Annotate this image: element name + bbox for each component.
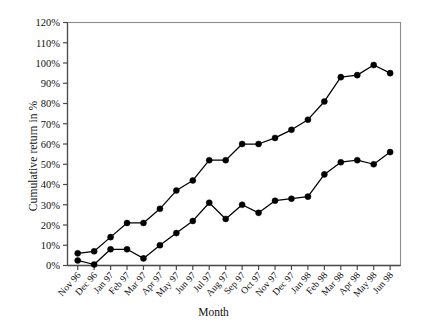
y-tick-label: 30% (41, 200, 61, 211)
y-tick-label: 50% (41, 159, 61, 170)
data-point-marker (108, 234, 114, 240)
y-axis-title: Cumulative return in % (27, 71, 39, 241)
data-point-marker (91, 248, 97, 254)
data-point-marker (140, 220, 146, 226)
line-chart-plot: 0%10%20%30%40%50%60%70%80%90%100%110%120… (0, 0, 427, 329)
y-tick-label: 0% (46, 260, 60, 271)
data-point-marker (190, 177, 196, 183)
data-point-marker (371, 161, 377, 167)
data-point-marker (223, 216, 229, 222)
data-point-marker (272, 198, 278, 204)
data-point-marker (305, 117, 311, 123)
x-axis-title: Month (0, 306, 427, 318)
data-point-marker (338, 159, 344, 165)
y-tick-label: 40% (41, 179, 61, 190)
y-tick-label: 100% (36, 58, 61, 69)
data-point-marker (305, 194, 311, 200)
data-point-marker (91, 261, 97, 267)
data-point-marker (206, 157, 212, 163)
data-point-marker (321, 171, 327, 177)
data-point-marker (75, 250, 81, 256)
y-tick-label: 80% (41, 98, 61, 109)
y-tick-label: 90% (41, 78, 61, 89)
data-point-marker (124, 246, 130, 252)
data-point-marker (288, 127, 294, 133)
data-point-marker (157, 242, 163, 248)
y-tick-label: 110% (36, 38, 60, 49)
data-point-marker (173, 188, 179, 194)
x-axis-ticks (78, 266, 390, 271)
x-axis-tick-labels: Nov 96Dec 96Jan 97Feb 97Mar 97Apr 97May … (55, 269, 395, 298)
data-point-marker (338, 74, 344, 80)
data-point-marker (354, 157, 360, 163)
series-lines (78, 65, 390, 264)
data-point-marker (206, 200, 212, 206)
chart-container: 0%10%20%30%40%50%60%70%80%90%100%110%120… (0, 0, 427, 329)
data-point-marker (256, 141, 262, 147)
data-point-marker (387, 70, 393, 76)
y-tick-label: 10% (41, 240, 61, 251)
series-markers (75, 62, 394, 268)
data-point-marker (239, 202, 245, 208)
data-point-marker (223, 157, 229, 163)
data-point-marker (371, 62, 377, 68)
data-point-marker (157, 206, 163, 212)
data-point-marker (288, 196, 294, 202)
plot-frame (68, 23, 401, 266)
y-tick-label: 120% (36, 17, 61, 28)
data-point-marker (256, 210, 262, 216)
y-tick-label: 70% (41, 119, 61, 130)
data-point-marker (140, 255, 146, 261)
y-axis-ticks (63, 23, 68, 266)
data-point-marker (272, 135, 278, 141)
data-point-marker (108, 246, 114, 252)
data-point-marker (75, 257, 81, 263)
data-point-marker (124, 220, 130, 226)
series-line (78, 65, 390, 253)
y-tick-label: 20% (41, 220, 61, 231)
data-point-marker (387, 149, 393, 155)
data-point-marker (173, 230, 179, 236)
data-point-marker (354, 72, 360, 78)
data-point-marker (321, 98, 327, 104)
data-point-marker (190, 218, 196, 224)
y-axis-tick-labels: 0%10%20%30%40%50%60%70%80%90%100%110%120… (36, 17, 61, 271)
y-tick-label: 60% (41, 139, 61, 150)
data-point-marker (239, 141, 245, 147)
